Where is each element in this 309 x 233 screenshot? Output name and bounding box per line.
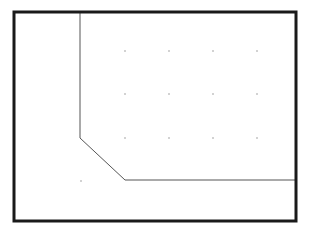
- grid-dot: [168, 50, 170, 52]
- grid-dot: [212, 50, 214, 52]
- grid-dot: [124, 137, 126, 139]
- grid-dot: [256, 137, 258, 139]
- grid-dot: [212, 93, 214, 95]
- background: [0, 0, 309, 233]
- grid-dot: [168, 93, 170, 95]
- grid-dot: [212, 137, 214, 139]
- grid-dot: [256, 50, 258, 52]
- grid-dot: [168, 137, 170, 139]
- diagram-canvas: [0, 0, 309, 233]
- grid-dot: [80, 180, 82, 182]
- grid-dot: [124, 93, 126, 95]
- grid-dot: [256, 93, 258, 95]
- grid-dot: [124, 50, 126, 52]
